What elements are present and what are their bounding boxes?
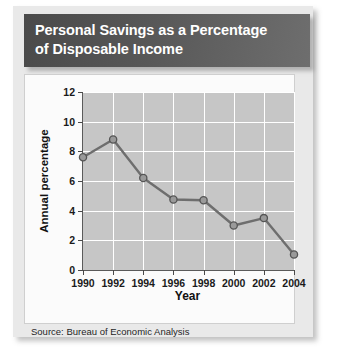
x-axis-tick — [234, 270, 235, 275]
data-point-marker — [200, 197, 207, 204]
y-axis-tick-label: 12 — [63, 86, 75, 98]
title-line-2: of Disposable Income — [35, 40, 300, 59]
gridline-vertical — [294, 92, 295, 270]
data-point-marker — [140, 174, 147, 181]
data-point-marker — [170, 196, 177, 203]
x-axis-tick-label: 2002 — [252, 277, 275, 289]
title-line-1: Personal Savings as a Percentage — [35, 22, 267, 38]
data-point-marker — [110, 136, 117, 143]
series-line — [83, 139, 294, 254]
page-title: Personal Savings as a Percentage of Disp… — [35, 21, 300, 59]
y-axis-title: Annual percentage — [36, 92, 52, 270]
plot-area: 0246810121990199219941996199820002002200… — [82, 92, 294, 271]
y-axis-tick-label: 8 — [69, 145, 75, 157]
x-axis-tick-label: 2004 — [282, 277, 305, 289]
x-axis-tick — [294, 270, 295, 275]
x-axis-tick — [143, 270, 144, 275]
x-axis-tick-label: 1994 — [132, 277, 155, 289]
x-axis-tick — [83, 270, 84, 275]
x-axis-tick — [113, 270, 114, 275]
y-axis-tick-label: 2 — [69, 234, 75, 246]
data-point-marker — [79, 154, 86, 161]
data-point-marker — [260, 214, 267, 221]
x-axis-tick-label: 1992 — [101, 277, 124, 289]
x-axis-title: Year — [82, 289, 293, 303]
data-point-marker — [290, 251, 297, 258]
y-axis-tick-label: 4 — [69, 205, 75, 217]
y-axis-tick-label: 0 — [69, 264, 75, 276]
y-axis-tick-label: 10 — [63, 116, 75, 128]
data-point-marker — [230, 222, 237, 229]
x-axis-tick-label: 1990 — [71, 277, 94, 289]
x-axis-tick-label: 2000 — [222, 277, 245, 289]
x-axis-tick-label: 1996 — [162, 277, 185, 289]
source-note: Source: Bureau of Economic Analysis — [31, 326, 189, 337]
x-axis-tick-label: 1998 — [192, 277, 215, 289]
chart-figure: Personal Savings as a Percentage of Disp… — [0, 0, 340, 359]
x-axis-tick — [204, 270, 205, 275]
x-axis-tick — [173, 270, 174, 275]
x-axis-tick — [264, 270, 265, 275]
y-axis-tick-label: 6 — [69, 175, 75, 187]
data-series — [83, 92, 294, 270]
chart-title-banner: Personal Savings as a Percentage of Disp… — [24, 14, 310, 67]
